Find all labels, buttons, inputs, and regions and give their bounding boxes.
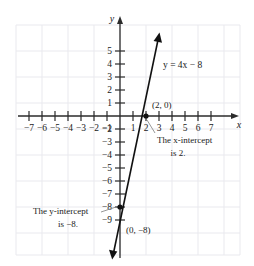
- y-tick-label: 4: [107, 59, 112, 69]
- x-tick-label: 4: [170, 123, 175, 133]
- y-intercept-note-line1: The y-intercept: [33, 206, 89, 216]
- y-tick-label: −3: [102, 137, 112, 147]
- x-intercept-point-label: (2, 0): [152, 100, 172, 110]
- y-tick-label: 3: [107, 72, 112, 82]
- y-tick-label: 2: [107, 85, 112, 95]
- x-tick-label: −4: [63, 123, 73, 133]
- x-intercept-note-line2: is 2.: [170, 148, 185, 158]
- x-tick-label: 1: [131, 123, 136, 133]
- x-intercept-dot: [143, 113, 148, 118]
- x-tick-label: 6: [196, 123, 201, 133]
- coordinate-plane-svg: −7 −6 −5 −4 −3 −2 −1 1 2 3 4 5 6 7 5 4 3…: [0, 0, 254, 266]
- x-tick-label: −6: [37, 123, 47, 133]
- y-axis-label: y: [109, 13, 115, 24]
- x-axis-label: x: [236, 119, 242, 130]
- x-tick-label: −7: [24, 123, 34, 133]
- y-intercept-note-line2: is −8.: [58, 219, 78, 229]
- graph-figure: −7 −6 −5 −4 −3 −2 −1 1 2 3 4 5 6 7 5 4 3…: [0, 0, 254, 266]
- x-tick-label: 2: [144, 123, 149, 133]
- y-intercept-dot: [117, 204, 122, 209]
- x-intercept-note-line1: The x-intercept: [157, 135, 213, 145]
- x-tick-label: −2: [89, 123, 99, 133]
- y-intercept-point-label: (0, −8): [126, 225, 151, 235]
- y-tick-label: −8: [102, 202, 112, 212]
- y-tick-label: −7: [102, 189, 112, 199]
- x-tick-label: 5: [183, 123, 188, 133]
- y-tick-label: −2: [102, 124, 112, 134]
- y-tick-label: 1: [107, 98, 112, 108]
- y-tick-label: 5: [107, 46, 112, 56]
- y-tick-label: −9: [102, 215, 112, 225]
- equation-label: y = 4x − 8: [163, 60, 202, 70]
- y-tick-label: −4: [102, 150, 112, 160]
- y-tick-label: −5: [102, 163, 112, 173]
- x-tick-label: 3: [157, 123, 162, 133]
- x-tick-label: −5: [50, 123, 60, 133]
- y-tick-label: −6: [102, 176, 112, 186]
- x-tick-label: 7: [209, 123, 214, 133]
- x-tick-label: −3: [76, 123, 86, 133]
